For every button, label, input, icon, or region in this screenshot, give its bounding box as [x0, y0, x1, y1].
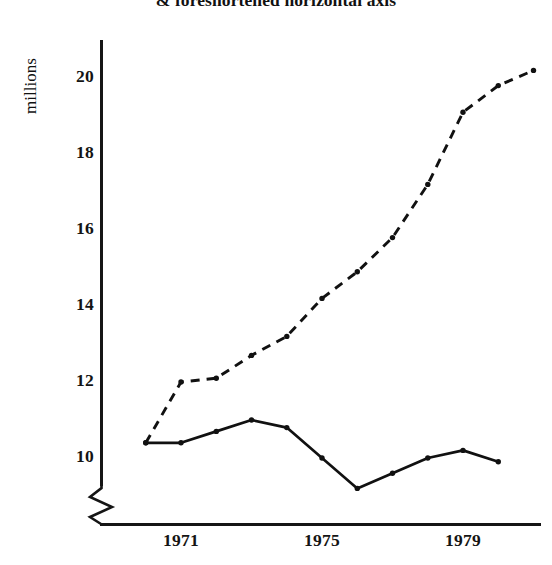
series-line-solid-series — [146, 420, 499, 488]
chart-container: & foreshortened horizontal axis millions… — [0, 0, 552, 565]
data-point-marker — [531, 68, 536, 73]
data-point-marker — [143, 440, 148, 445]
data-point-marker — [284, 425, 289, 430]
data-point-marker — [355, 486, 360, 491]
data-point-marker — [460, 448, 465, 453]
series-dashed-series — [143, 68, 536, 446]
data-point-marker — [390, 471, 395, 476]
data-point-marker — [178, 440, 183, 445]
data-point-marker — [496, 83, 501, 88]
data-point-marker — [284, 334, 289, 339]
data-point-marker — [460, 110, 465, 115]
data-point-marker — [425, 455, 430, 460]
data-point-marker — [319, 296, 324, 301]
data-point-marker — [496, 459, 501, 464]
axis-break-zigzag — [90, 486, 112, 524]
data-point-marker — [249, 353, 254, 358]
series-solid-series — [143, 417, 501, 491]
plot-area — [0, 0, 552, 565]
data-point-marker — [319, 455, 324, 460]
data-point-marker — [390, 235, 395, 240]
data-point-marker — [214, 429, 219, 434]
data-point-marker — [425, 182, 430, 187]
series-layer — [143, 68, 536, 491]
series-line-dashed-series — [146, 70, 534, 442]
data-point-marker — [178, 379, 183, 384]
data-point-marker — [355, 269, 360, 274]
data-point-marker — [249, 417, 254, 422]
data-point-marker — [214, 376, 219, 381]
